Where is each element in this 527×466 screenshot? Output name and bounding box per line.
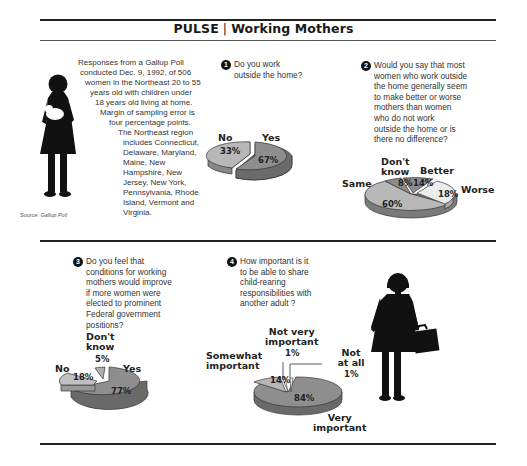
- pie1-pct-no: 33%: [220, 146, 240, 156]
- intro-line: conducted Dec. 9, 1992, of 506: [80, 68, 191, 78]
- intro-line: includes Connecticut,: [123, 138, 199, 148]
- pie4-label-very-important: Very important: [313, 413, 366, 433]
- label-line: important: [206, 361, 262, 371]
- pie2-pct-worse: 18%: [438, 189, 458, 199]
- pie2-pct-same: 60%: [382, 199, 402, 209]
- pie1-pct-yes: 67%: [258, 155, 278, 165]
- question-3: 3 Do you feel that conditions for workin…: [73, 256, 172, 330]
- pie2-pct-better: 14%: [413, 178, 433, 188]
- question-line: positions?: [86, 320, 172, 331]
- label-line: at all: [336, 358, 366, 368]
- question-line: if more women were: [86, 288, 172, 299]
- question-line: conditions for working: [86, 267, 172, 278]
- question-number-badge: 2: [361, 61, 371, 71]
- intro-line: Maine, New: [123, 158, 165, 168]
- mother-holding-baby-icon: [34, 72, 84, 202]
- pie1-label-no: No: [218, 133, 232, 143]
- label-line: important: [265, 337, 318, 347]
- question-line: elected to prominent: [86, 298, 172, 309]
- title-text: Working Mothers: [231, 21, 353, 36]
- question-line: Federal government: [86, 309, 172, 320]
- question-line: mothers would improve: [86, 277, 172, 288]
- pie4-label-not-very-important: Not very important: [265, 327, 318, 347]
- pie3-label-dont-know: Don't know: [86, 332, 115, 352]
- pie4-label-somewhat-important: Somewhat important: [206, 351, 262, 371]
- intro-line: Pennsylvania, Rhode: [123, 188, 199, 198]
- intro-line: The Northeast region: [118, 128, 193, 138]
- intro-line: Responses from a Gallup Poll: [78, 58, 184, 68]
- pie3-label-yes: Yes: [123, 364, 141, 374]
- bottom-rule: [40, 443, 496, 445]
- pie3-pct-yes: 77%: [111, 386, 131, 396]
- pie3-label-no: No: [55, 364, 69, 374]
- intro-line: Hampshire, New: [123, 168, 182, 178]
- page-title: PULSE|Working Mothers: [0, 21, 527, 36]
- question-line: child-rearing: [240, 277, 311, 288]
- intro-line: four percentage points.: [109, 118, 191, 128]
- question-line: to make better or worse: [374, 92, 527, 103]
- question-number-badge: 4: [227, 257, 237, 267]
- question-line: Do you work: [234, 59, 302, 70]
- header-underline: [40, 40, 496, 41]
- source-credit: Source: Gallup Poll: [20, 212, 67, 218]
- question-line: responsibilities with: [240, 288, 311, 299]
- pie2-label-better: Better: [420, 166, 454, 176]
- question-line: outside the home?: [234, 70, 302, 81]
- question-4: 4 How important is it to be able to shar…: [227, 256, 311, 309]
- question-number-badge: 1: [221, 60, 231, 70]
- pie2-label-dont-know: Don't know: [381, 157, 410, 177]
- pie2-pct-dont-know: 8%: [398, 178, 412, 188]
- pie2-label-worse: Worse: [461, 185, 494, 195]
- question-line: another adult ?: [240, 298, 311, 309]
- intro-line: Margin of sampling error is: [100, 108, 195, 118]
- pie4-pct-not-very: 1%: [285, 348, 299, 358]
- pie1-label-yes: Yes: [262, 133, 280, 143]
- label-line: important: [313, 423, 366, 433]
- pie3-pct-dont-know: 5%: [95, 354, 109, 364]
- question-line: women who work outside: [374, 71, 527, 82]
- pie4-pct-not-at-all: 1%: [344, 369, 358, 379]
- question-line: who do not work: [374, 113, 527, 124]
- question-line: there no difference?: [374, 134, 527, 145]
- section-name: PULSE: [173, 21, 218, 36]
- woman-with-briefcase-icon: [367, 272, 437, 402]
- question-line: How important is it: [240, 256, 311, 267]
- question-line: to be able to share: [240, 267, 311, 278]
- intro-line: Jersey, New York,: [123, 178, 186, 188]
- label-line: know: [381, 167, 410, 177]
- question-line: outside the home or is: [374, 124, 527, 135]
- pie4-pct-somewhat: 14%: [270, 375, 290, 385]
- pie4-pct-very: 84%: [294, 393, 314, 403]
- intro-line: Delaware, Maryland,: [123, 148, 196, 158]
- question-2: 2 Would you say that most women who work…: [361, 60, 527, 145]
- question-line: Would you say that most: [374, 60, 527, 71]
- middle-rule: [40, 240, 496, 242]
- intro-line: Virginia.: [123, 208, 152, 218]
- intro-line: women in the Northeast 20 to 55: [85, 78, 201, 88]
- pie4-label-not-at-all: Not at all: [336, 348, 366, 368]
- question-line: the home generally seem: [374, 81, 527, 92]
- intro-line: years old with children under: [90, 88, 192, 98]
- question-line: mothers than women: [374, 102, 527, 113]
- question-1: 1 Do you work outside the home?: [221, 59, 302, 80]
- question-line: Do you feel that: [86, 256, 172, 267]
- intro-line: 18 years old living at home.: [95, 98, 192, 108]
- title-separator: |: [223, 21, 227, 36]
- question-number-badge: 3: [73, 257, 83, 267]
- label-line: know: [86, 342, 115, 352]
- pie3-pct-no: 18%: [73, 372, 93, 382]
- intro-line: Island, Vermont and: [123, 198, 194, 208]
- pie2-label-same: Same: [342, 179, 372, 189]
